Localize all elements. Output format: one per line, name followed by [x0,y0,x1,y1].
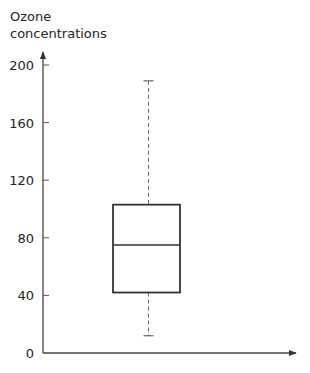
y-tick-label: 40 [17,288,34,303]
iqr-box [113,205,180,293]
boxes [113,81,180,336]
y-tick-label: 200 [9,58,34,73]
y-tick-label: 80 [17,231,34,246]
y-tick-label: 0 [26,346,34,361]
y-tick-label: 120 [9,173,34,188]
y-tick-label: 160 [9,116,34,131]
box-plot: 04080120160200 [0,0,310,373]
